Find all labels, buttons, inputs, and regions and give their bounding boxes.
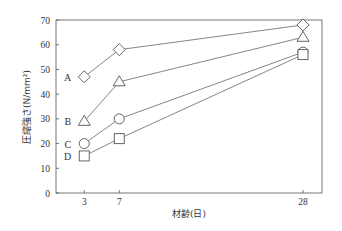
diamond-marker (113, 44, 125, 56)
y-tick-label: 60 (41, 40, 51, 50)
y-tick-label: 0 (45, 189, 50, 199)
y-tick-label: 20 (41, 139, 51, 149)
line-chart: 010203040506070 3728 ABCD 材齢(日) 圧縮強さ(N/m… (0, 0, 342, 231)
series-a: A (64, 19, 309, 83)
x-tick-label: 28 (298, 197, 308, 207)
x-axis-title: 材齢(日) (172, 208, 206, 219)
square-marker (114, 134, 124, 144)
series-d: D (64, 50, 308, 162)
square-marker (79, 151, 89, 161)
circle-marker (79, 139, 89, 149)
x-tick-label: 7 (117, 197, 122, 207)
y-tick-label: 50 (41, 65, 51, 75)
circle-marker (114, 114, 124, 124)
diamond-marker (297, 19, 309, 31)
y-tick-label: 40 (41, 90, 51, 100)
diamond-marker (78, 71, 90, 83)
series-label: C (65, 139, 72, 150)
series-label: B (65, 116, 72, 127)
y-axis-title: 圧縮強さ(N/mm²) (21, 70, 32, 144)
x-tick-label: 3 (82, 197, 87, 207)
series-c: C (65, 47, 308, 149)
x-axis: 3728 (82, 190, 308, 207)
square-marker (298, 50, 308, 60)
y-tick-label: 30 (41, 114, 51, 124)
series-b: B (65, 31, 309, 127)
series-line (84, 52, 303, 143)
y-tick-label: 10 (41, 164, 51, 174)
triangle-marker (297, 31, 309, 41)
series-label: A (64, 72, 72, 83)
series-group: ABCD (64, 19, 309, 162)
series-label: D (64, 151, 71, 162)
y-tick-label: 70 (41, 16, 51, 26)
